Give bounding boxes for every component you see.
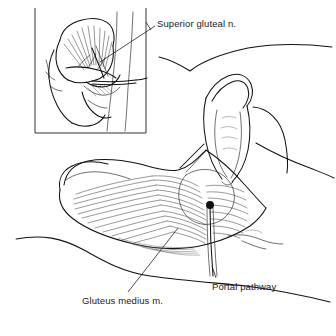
label-portal-pathway: Portal pathway [212,281,276,292]
label-superior-gluteal-nerve: Superior gluteal n. [157,18,236,29]
label-gluteus-medius-muscle: Gluteus medius m. [82,295,163,306]
anatomical-figure: .ln { fill:none; stroke:#111; stroke-wid… [0,0,336,336]
canvas-background [0,0,336,336]
portal-entry-dot [206,201,214,209]
illustration-canvas: .ln { fill:none; stroke:#111; stroke-wid… [0,0,336,336]
